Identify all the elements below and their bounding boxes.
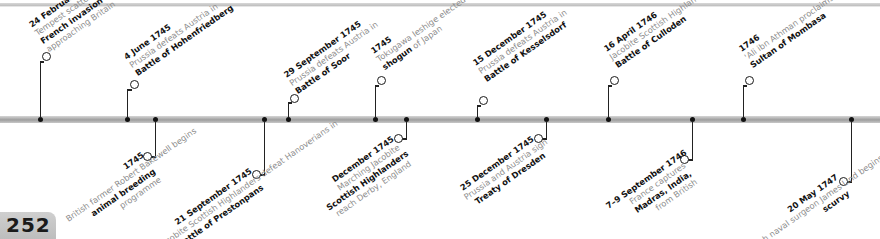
connector-elbow — [288, 102, 292, 104]
event-marker-icon — [130, 80, 139, 89]
connector-line — [127, 90, 129, 118]
event-marker-icon — [479, 96, 488, 105]
event-label-b0: 1745 British farmer Robert Bakewell begi… — [58, 150, 163, 239]
page-number: 252 — [6, 213, 51, 237]
event-marker-icon — [745, 76, 754, 85]
event-label-a4: 15 December 1745 Prussia defeats Austria… — [471, 0, 578, 84]
event-label-a5: 16 April 1746 Jacobite Scottish Highland… — [602, 0, 726, 70]
event-label-a1: 4 June 1745 Prussia defeats Austria in B… — [122, 0, 238, 78]
connector-elbow — [608, 85, 612, 87]
connector-elbow — [743, 85, 747, 87]
event-label-b3: 25 December 1745 Prussia and Austria sig… — [456, 134, 547, 210]
connector-line — [375, 86, 377, 118]
connector-line — [692, 121, 694, 159]
event-text: Prussia defeats Austria in — [477, 5, 573, 76]
connector-elbow — [477, 105, 481, 107]
event-label-b5: 20 May 1747 British naval surgeon James … — [737, 172, 851, 239]
connector-line — [40, 62, 42, 118]
connector-line — [743, 86, 745, 118]
event-label-a0: 24 February 1744 Tempest scatters French… — [27, 0, 115, 54]
connector-line — [608, 86, 610, 118]
connector-line — [546, 121, 548, 138]
event-marker-icon — [610, 76, 619, 85]
event-label-b1: 21 September 1745 Jacobite Scottish High… — [151, 166, 265, 239]
connector-line — [477, 106, 479, 118]
event-marker-icon — [377, 76, 386, 85]
connector-line — [288, 103, 290, 118]
timeline-bar — [0, 116, 880, 123]
event-label-b4: 7–9 September 1746 France captures Madra… — [604, 152, 699, 235]
connector-line — [406, 121, 408, 138]
connector-elbow — [375, 85, 379, 87]
connector-elbow — [40, 61, 44, 63]
event-label-a6: 1746 'Ali ibn Athman proclaims himself S… — [737, 0, 853, 70]
connector-elbow — [127, 89, 132, 91]
event-label-b2: December 1745 Marching Jacobite Scottish… — [313, 134, 413, 221]
